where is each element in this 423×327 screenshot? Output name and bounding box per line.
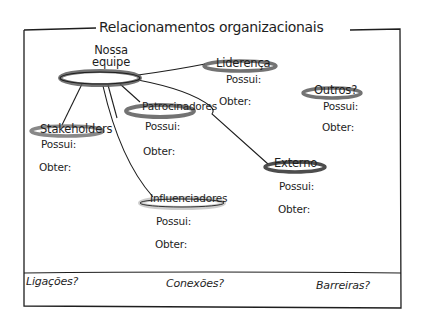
node-influenciadores-obter: Obter:	[155, 238, 187, 250]
node-outros-label: Outros?	[314, 83, 357, 97]
node-patrocinadores-label: Patrocinadores	[142, 100, 217, 112]
footer-ligacoes: Ligações?	[26, 275, 78, 288]
center-node-label: Nossa equipe	[92, 44, 130, 68]
center-label-line2: equipe	[92, 56, 130, 68]
node-stakeholders-label: Stakeholders	[40, 122, 112, 136]
node-externo-label: Externo	[274, 156, 317, 170]
node-patrocinadores-obter: Obter:	[143, 145, 175, 157]
node-lideranca-possui: Possui:	[226, 73, 261, 85]
node-externo-obter: Obter:	[278, 203, 310, 215]
footer-conexoes: Conexões?	[166, 277, 224, 290]
node-externo-possui: Possui:	[279, 180, 314, 192]
node-influenciadores-label: Influenciadores	[150, 192, 227, 204]
node-stakeholders-possui: Possui:	[41, 138, 76, 150]
node-outros-possui: Possui:	[323, 100, 358, 112]
node-stakeholders-obter: Obter:	[39, 161, 71, 173]
node-lideranca-label: Liderença	[216, 56, 270, 70]
node-patrocinadores-possui: Possui:	[145, 120, 180, 132]
diagram-title: Relacionamentos organizacionais	[96, 19, 326, 35]
node-lideranca-obter: Obter:	[219, 95, 251, 107]
footer-divider	[24, 272, 401, 273]
node-outros-obter: Obter:	[322, 121, 354, 133]
node-influenciadores-possui: Possui:	[156, 215, 191, 227]
footer-barreiras: Barreiras?	[316, 279, 370, 292]
